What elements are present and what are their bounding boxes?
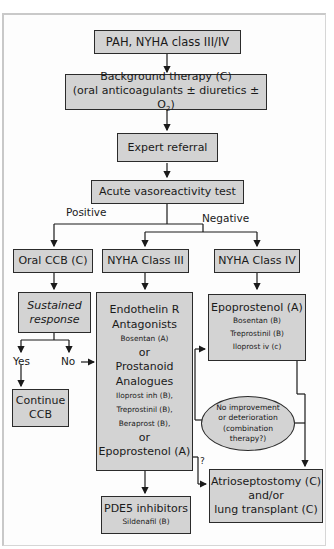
background-therapy-title: Background therapy (C)	[100, 70, 232, 84]
background-therapy-detail: (oral anticoagulants ± diuretics ± O2)	[66, 84, 266, 114]
node-class4-therapy: Epoprostenol (A) Bosentan (B) Treprostin…	[208, 294, 306, 361]
edge-label-negative: Negative	[202, 212, 249, 224]
node-nyha-class-4: NYHA Class IV	[214, 249, 300, 273]
no-improvement-line1: No improvement	[216, 403, 280, 413]
edge-label-yes: Yes	[13, 355, 30, 367]
drug-epoprostenol: Epoprostenol (A)	[99, 445, 191, 459]
node-class3-therapy: Endothelin R Antagonists Bosentan (A) or…	[96, 292, 193, 471]
prostanoid-heading-1: Prostanoid	[116, 360, 174, 374]
drug-treprostinil: Treprostinil (B),	[116, 403, 172, 417]
nyha-class-4-label: NYHA Class IV	[218, 254, 295, 268]
vasoreactivity-test-label: Acute vasoreactivity test	[99, 185, 236, 199]
atrioseptostomy-line1: Atrioseptostomy (C)	[211, 475, 321, 489]
node-pah-nyha-label: PAH, NYHA class III/IV	[106, 35, 229, 49]
node-vasoreactivity-test: Acute vasoreactivity test	[91, 180, 244, 204]
node-pah-nyha: PAH, NYHA class III/IV	[94, 30, 241, 54]
era-heading-1: Endothelin R	[110, 303, 180, 317]
node-pde5-inhibitors: PDE5 inhibitors Sildenafil (B)	[101, 496, 191, 534]
sustained-response-line1: Sustained	[27, 299, 82, 313]
node-continue-ccb: Continue CCB	[12, 389, 69, 427]
node-sustained-response: Sustained response	[18, 292, 91, 333]
edge-label-positive: Positive	[66, 206, 106, 218]
oral-ccb-label: Oral CCB (C)	[18, 254, 87, 268]
nyha-class-3-label: NYHA Class III	[107, 254, 183, 268]
or-separator-2: or	[139, 431, 150, 445]
continue-ccb-line1: Continue	[16, 394, 65, 408]
no-improvement-line3: (combination	[223, 424, 273, 434]
or-separator-1: or	[139, 346, 150, 360]
edge-label-question: ?	[200, 456, 205, 466]
era-heading-2: Antagonists	[112, 318, 177, 332]
node-oral-ccb: Oral CCB (C)	[13, 249, 93, 273]
class4-bosentan: Bosentan (B)	[233, 315, 281, 328]
pde5-heading: PDE5 inhibitors	[104, 502, 188, 516]
class4-epoprostenol: Epoprostenol (A)	[211, 301, 303, 315]
node-no-improvement: No improvement or deterioration (combina…	[201, 396, 295, 451]
node-background-therapy: Background therapy (C) (oral anticoagula…	[65, 74, 267, 110]
edge-label-no: No	[61, 355, 75, 367]
expert-referral-label: Expert referral	[128, 141, 208, 155]
prostanoid-heading-2: Analogues	[116, 375, 173, 389]
drug-iloprost-inh: Iloprost inh (B),	[116, 389, 173, 403]
node-expert-referral: Expert referral	[117, 133, 218, 162]
class4-iloprost-iv: Iloprost iv (c)	[233, 341, 282, 354]
no-improvement-line2: or deterioration	[218, 413, 278, 423]
node-nyha-class-3: NYHA Class III	[102, 249, 189, 273]
no-improvement-line4: therapy?)	[230, 434, 267, 444]
pde5-sildenafil: Sildenafil (B)	[122, 516, 169, 528]
atrioseptostomy-line3: lung transplant (C)	[214, 503, 318, 517]
sustained-response-line2: response	[29, 313, 79, 327]
class4-treprostinil: Treprostinil (B)	[230, 328, 284, 341]
node-atrioseptostomy: Atrioseptostomy (C) and/or lung transpla…	[209, 469, 323, 523]
atrioseptostomy-line2: and/or	[248, 489, 284, 503]
continue-ccb-line2: CCB	[29, 408, 52, 422]
drug-bosentan: Bosentan (A)	[121, 332, 169, 346]
drug-beraprost: Beraprost (B),	[119, 417, 171, 431]
